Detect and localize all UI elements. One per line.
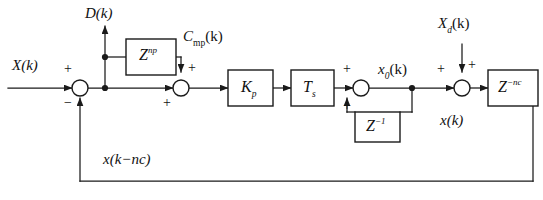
label-x0-base: x [378, 61, 385, 77]
label-output-x: x(k) [440, 113, 463, 128]
label-z-nc-exponent: −nc [507, 77, 522, 87]
label-input-x: X(k) [12, 58, 38, 73]
sign-sum3-plus-bottom: + [343, 99, 351, 113]
sign-sum1-plus: + [64, 62, 72, 76]
label-z-np-exponent: np [148, 45, 157, 55]
node-dot-x0-tap [409, 85, 415, 91]
label-ts-base: T [303, 78, 312, 95]
label-block-z-nc: Z−nc [498, 79, 521, 95]
label-x0: x0(k) [378, 62, 407, 81]
label-compensation-cmp: Cmp(k) [183, 29, 223, 48]
node-dot-znp-branch [102, 54, 108, 60]
label-xd-subscript: d [447, 25, 452, 35]
label-xd: Xd(k) [438, 16, 469, 35]
label-disturbance-d: D(k) [85, 6, 112, 21]
label-block-z-inv: Z−1 [366, 118, 385, 134]
label-ts-subscript: s [312, 89, 316, 99]
summing-junction-2 [173, 80, 189, 96]
sign-sum4-plus-top: + [468, 58, 476, 72]
label-cmp-base: C [183, 28, 193, 44]
label-block-z-np: Znp [139, 47, 157, 63]
sign-sum3-plus-top: + [343, 62, 351, 76]
node-dot-main-branch [102, 85, 108, 91]
label-feedback-x-k-nc: x(k−nc) [103, 152, 151, 167]
summing-junction-3 [353, 80, 369, 96]
label-cmp-subscript: mp [193, 38, 205, 48]
summing-junction-1 [72, 80, 88, 96]
label-block-kp: Kp [241, 79, 256, 99]
label-z-np-base: Z [139, 46, 148, 63]
sign-sum1-minus: − [64, 96, 72, 110]
label-x0-subscript: 0 [385, 71, 390, 81]
label-kp-base: K [241, 78, 252, 95]
label-kp-subscript: p [252, 89, 257, 99]
sign-sum4-plus-left: + [437, 62, 445, 76]
label-block-ts: Ts [303, 79, 316, 99]
summing-junction-4 [454, 80, 470, 96]
sign-sum2-plus-left: + [163, 96, 171, 110]
sign-sum2-plus-top: + [188, 61, 196, 75]
label-z-nc-base: Z [498, 78, 507, 95]
label-cmp-arg: (k) [205, 28, 223, 44]
label-xd-arg: (k) [452, 15, 470, 31]
label-x0-arg: (k) [389, 61, 407, 77]
block-diagram: X(k) D(k) Cmp(k) x0(k) Xd(k) x(k) x(k−nc… [0, 0, 543, 200]
label-z-inv-exponent: −1 [375, 116, 386, 126]
label-xd-base: X [438, 15, 447, 31]
label-z-inv-base: Z [366, 117, 375, 134]
